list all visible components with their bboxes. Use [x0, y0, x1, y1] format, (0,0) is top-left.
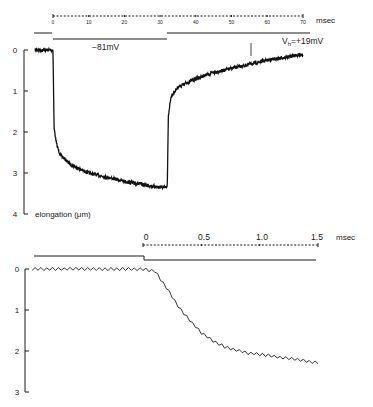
top-ytick-3: 3 — [13, 169, 18, 178]
holding-voltage-label: Vh=+19mV — [282, 36, 323, 47]
bottom-voltage-protocol — [34, 256, 316, 260]
top-time-unit: msec — [316, 16, 335, 25]
bottom-tick-1-5: 1.5 — [311, 232, 323, 242]
step-voltage-label: −81mV — [92, 42, 119, 52]
top-tick-70: 70 — [300, 19, 306, 25]
top-ytick-1: 1 — [13, 87, 18, 96]
top-tick-50: 50 — [229, 19, 235, 25]
bottom-tick-1-0: 1.0 — [256, 232, 268, 242]
bottom-time-unit: msec — [336, 233, 355, 242]
bottom-ytick-1: 1 — [15, 306, 20, 315]
top-tick-40: 40 — [193, 19, 199, 25]
bottom-y-axis: 0 1 2 3 — [15, 265, 29, 397]
top-y-axis: 0 1 2 3 4 elongation (μm) — [13, 46, 91, 219]
figure: 0 10 20 30 40 50 60 70 msec −81mV Vh=+19… — [0, 0, 373, 407]
top-time-scale-bar: 0 10 20 30 40 50 60 70 msec — [52, 14, 336, 25]
top-tick-60: 60 — [264, 19, 270, 25]
top-elongation-trace — [35, 43, 303, 189]
top-ytick-4: 4 — [13, 210, 18, 219]
top-panel: 0 10 20 30 40 50 60 70 msec −81mV Vh=+19… — [13, 14, 335, 219]
top-tick-0: 0 — [52, 19, 55, 25]
top-voltage-protocol: −81mV Vh=+19mV — [34, 33, 323, 52]
top-tick-10: 10 — [86, 19, 92, 25]
bottom-elongation-trace — [32, 267, 318, 363]
bottom-time-scale-bar: 0 0.5 1.0 1.5 msec — [143, 232, 355, 247]
bottom-ytick-2: 2 — [15, 347, 20, 356]
bottom-ytick-0: 0 — [15, 265, 20, 274]
top-tick-20: 20 — [122, 19, 128, 25]
bottom-panel: 0 0.5 1.0 1.5 msec 0 1 2 3 — [15, 232, 355, 397]
bottom-tick-0: 0 — [144, 232, 149, 242]
y-axis-label-elongation: elongation (μm) — [35, 210, 91, 219]
top-tick-30: 30 — [157, 19, 163, 25]
bottom-tick-0-5: 0.5 — [198, 232, 210, 242]
top-ytick-0: 0 — [13, 46, 18, 55]
bottom-ytick-3: 3 — [15, 388, 20, 397]
top-ytick-2: 2 — [13, 128, 18, 137]
